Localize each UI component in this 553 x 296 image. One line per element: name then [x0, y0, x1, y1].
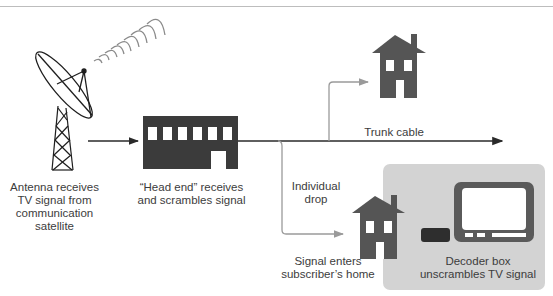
subscriber-house-icon	[352, 195, 405, 259]
house-top-icon	[372, 34, 426, 98]
decoder-label: Decoder box unscrambles TV signal	[412, 255, 544, 281]
antenna-label: Antenna receives TV signal from communic…	[4, 181, 105, 233]
diagram-canvas	[0, 0, 553, 296]
subscriber-home-label: Signal enters subscriber’s home	[281, 255, 375, 281]
antenna-tower-icon	[52, 106, 73, 170]
satellite-dish-icon	[29, 46, 100, 124]
signal-waves-icon	[94, 19, 165, 63]
trunk-cable-label: Trunk cable	[349, 126, 439, 139]
decoder-box-icon	[421, 228, 450, 242]
television-icon	[454, 182, 534, 242]
head-end-building-icon	[143, 116, 238, 169]
individual-drop-label: Individual drop	[288, 180, 344, 206]
head-end-label: “Head end” receives and scrambles signal	[133, 181, 250, 207]
